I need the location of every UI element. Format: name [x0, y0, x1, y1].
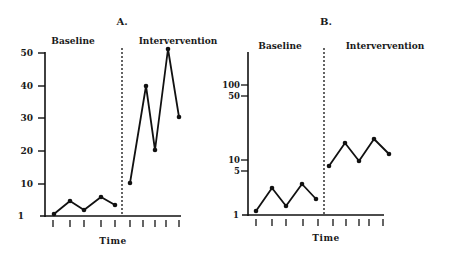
svg-text:30: 30 [20, 113, 33, 123]
chart-a-y-tick-labels: 50 40 30 20 10 1 [18, 48, 33, 221]
svg-text:1: 1 [18, 211, 24, 221]
chart-b-intervention-label: Intervervention [346, 41, 425, 51]
chart-a-y-ticks [38, 53, 45, 184]
chart-b-baseline-label: Baseline [258, 41, 302, 51]
chart-b-y-tick-labels: 100 50 10 5 1 [222, 80, 240, 220]
chart-b-y-ticks [241, 85, 248, 171]
chart-b-x-ticks [256, 219, 383, 226]
svg-text:1: 1 [233, 210, 239, 220]
chart-b-title: B. [320, 16, 332, 27]
chart-b-intervention-points [327, 137, 392, 169]
chart-a: A. Baseline Intervervention 50 40 30 20 … [18, 16, 218, 246]
chart-b-x-label: Time [312, 233, 339, 243]
chart-b: B. Baseline Intervervention 100 50 10 5 … [222, 16, 425, 243]
svg-text:40: 40 [20, 81, 33, 91]
svg-text:5: 5 [234, 166, 240, 176]
svg-text:10: 10 [20, 179, 33, 189]
chart-a-x-ticks [53, 220, 179, 227]
chart-a-x-label: Time [99, 236, 126, 246]
chart-a-intervention-points [128, 47, 182, 186]
svg-text:50: 50 [20, 48, 33, 58]
svg-text:10: 10 [228, 155, 240, 165]
svg-text:50: 50 [228, 91, 240, 101]
chart-a-baseline-label: Baseline [51, 36, 95, 46]
svg-text:100: 100 [222, 80, 240, 90]
chart-a-intervention-label: Intervervention [139, 36, 218, 46]
chart-a-title: A. [115, 16, 127, 27]
figure: A. Baseline Intervervention 50 40 30 20 … [0, 0, 449, 262]
svg-text:20: 20 [20, 146, 33, 156]
chart-a-baseline-points [52, 195, 118, 217]
chart-b-baseline-points [254, 182, 319, 214]
chart-a-intervention-series [130, 49, 179, 183]
